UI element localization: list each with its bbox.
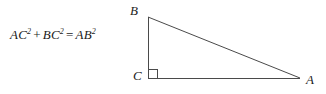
vertex-label-c: C bbox=[133, 69, 142, 82]
triangle-side-ab-hypotenuse bbox=[148, 17, 300, 78]
pythagorean-theorem-figure: AC2+BC2=AB2 B C A bbox=[0, 0, 326, 94]
right-triangle-diagram bbox=[0, 0, 326, 94]
vertex-label-a: A bbox=[306, 73, 314, 86]
right-angle-marker-icon bbox=[148, 69, 157, 78]
vertex-label-b: B bbox=[130, 4, 138, 17]
